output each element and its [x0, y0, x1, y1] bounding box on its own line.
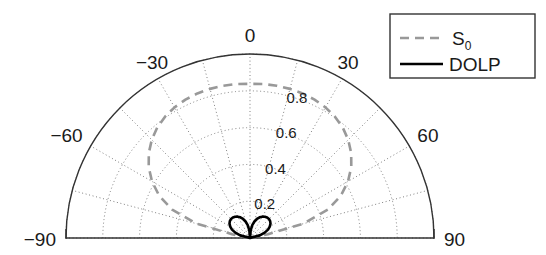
angular-gridline--60 [91, 146, 250, 238]
angle-label--90: −90 [24, 229, 56, 250]
angle-label-60: 60 [417, 125, 438, 146]
angular-gridline--15 [202, 60, 250, 238]
axis-outline-layer [66, 54, 434, 239]
legend-label-s0-text: S [452, 28, 465, 49]
series-s0-curve [149, 84, 352, 238]
angular-gridline-75 [250, 190, 428, 238]
angle-label--30: −30 [136, 52, 168, 73]
series-layer [149, 84, 352, 238]
radial-label-0_2: 0.2 [254, 195, 275, 212]
outer-arc [66, 54, 434, 238]
radial-label-0_6: 0.6 [276, 124, 297, 141]
radial-label-0_4: 0.4 [265, 160, 286, 177]
angle-label-0: 0 [245, 25, 256, 46]
polar-chart: −90−60−300306090 0.20.40.60.8 S0 DOLP [0, 0, 546, 255]
angular-gridlines [66, 54, 434, 238]
grid-layer [66, 54, 434, 238]
polar-plot-figure: −90−60−300306090 0.20.40.60.8 S0 DOLP [0, 0, 546, 255]
angle-label--60: −60 [50, 125, 82, 146]
angle-label-90: 90 [444, 229, 465, 250]
radial-gridline-outer [66, 54, 434, 238]
legend-label-dolp: DOLP [449, 54, 501, 75]
angular-gridline--30 [158, 79, 250, 238]
legend-box: S0 DOLP [390, 14, 535, 78]
radial-tick-labels: 0.20.40.60.8 [254, 89, 307, 212]
radial-label-0_8: 0.8 [287, 89, 308, 106]
angle-label-30: 30 [337, 52, 358, 73]
angular-gridline--75 [72, 190, 250, 238]
radial-gridlines [66, 54, 434, 238]
legend-label-s0-sub: 0 [465, 39, 472, 53]
